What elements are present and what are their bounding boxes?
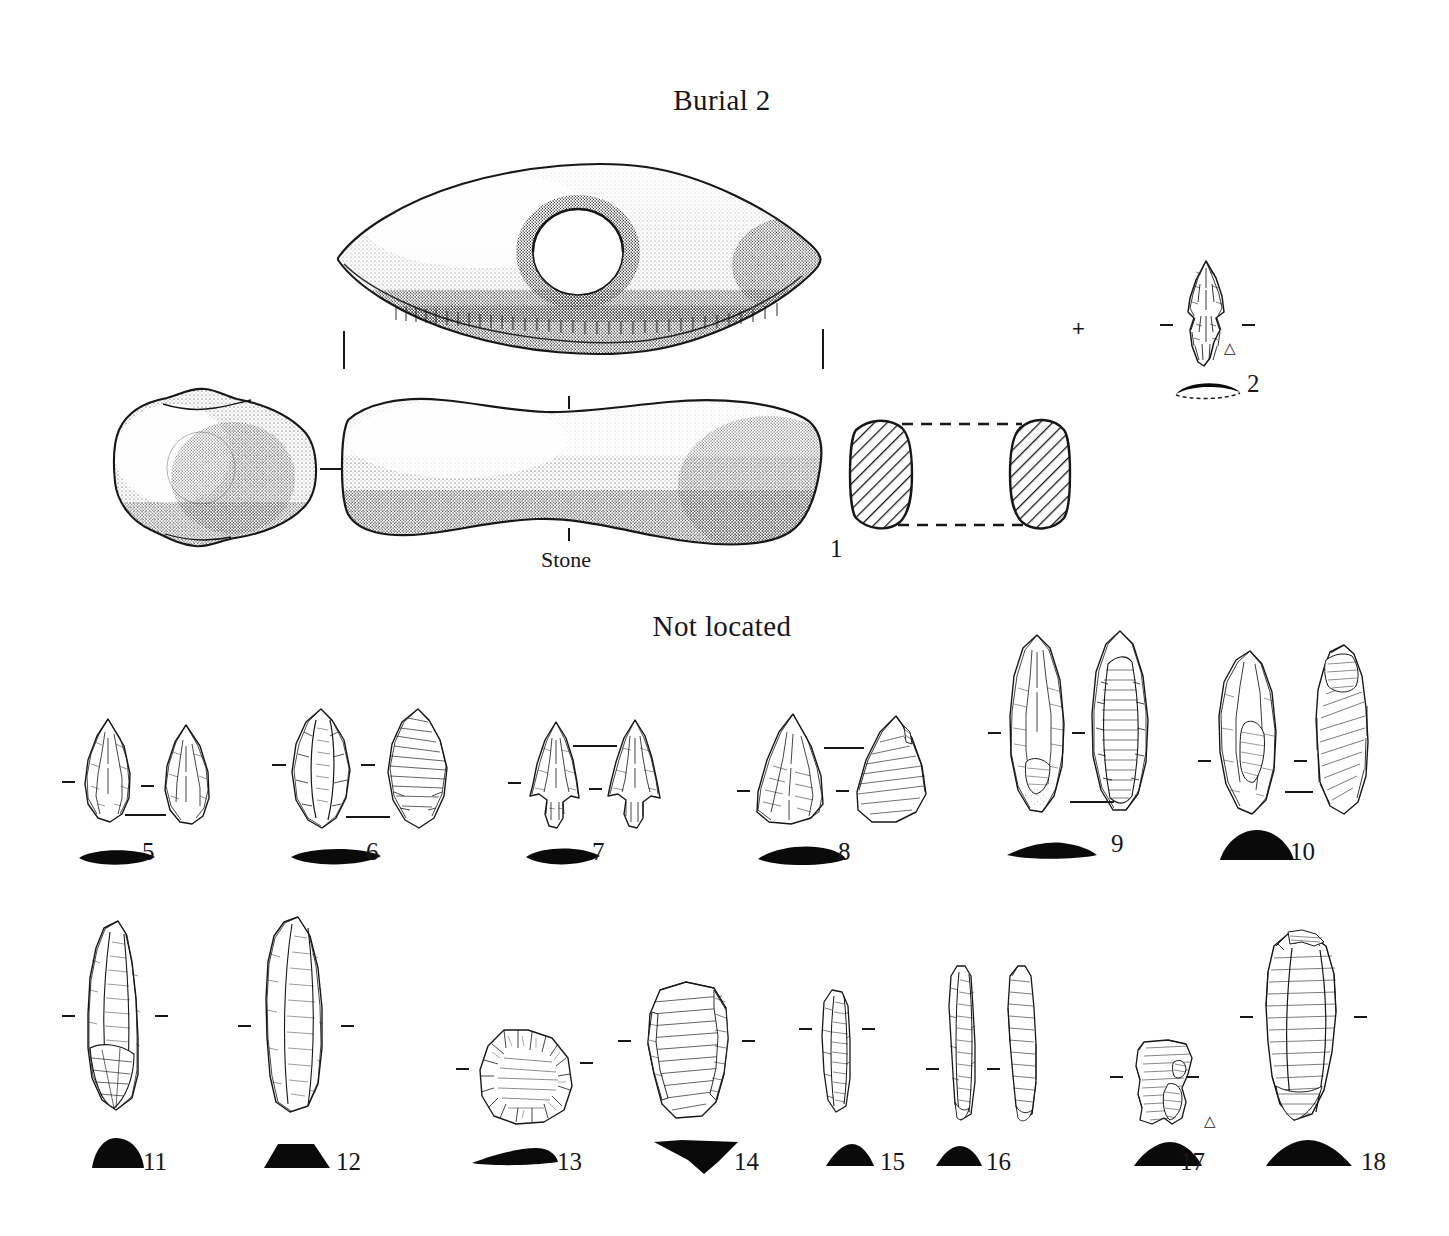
axe-drilled-hole — [516, 195, 640, 309]
scale-tick-6-under — [346, 816, 390, 818]
artifact-11-obverse — [80, 918, 150, 1118]
artifact-9-obverse — [1006, 632, 1068, 818]
label-artifact-10: 10 — [1290, 838, 1315, 866]
artifact-9-reverse — [1088, 628, 1152, 818]
label-artifact-6: 6 — [366, 838, 379, 866]
artifact-11-cross-section — [88, 1136, 148, 1170]
artifact-8-obverse — [753, 712, 829, 828]
scale-tick-6-mid — [361, 764, 375, 766]
scale-tick-7-left — [508, 782, 521, 784]
artifact-16-cross-section — [934, 1144, 984, 1168]
scale-tick-9-left — [988, 732, 1001, 734]
label-artifact-16: 16 — [986, 1148, 1011, 1176]
artifact-12-cross-section — [262, 1140, 332, 1170]
scale-tick-7-mid — [589, 788, 602, 790]
artifact-13-obverse — [474, 1022, 582, 1130]
scale-tick-12-right — [341, 1025, 354, 1027]
label-artifact-8: 8 — [838, 838, 851, 866]
artifact-2-cross-section — [1172, 376, 1244, 402]
artifact-7-cross-section — [524, 845, 602, 869]
artifact-plate: Burial 2 Not located — [0, 0, 1449, 1236]
scale-tick-14-right — [742, 1040, 755, 1042]
scale-tick-13-left — [456, 1068, 469, 1070]
artifact-16-obverse — [943, 962, 983, 1130]
scale-tick-15-right — [862, 1028, 875, 1030]
artifact-10-reverse — [1310, 642, 1374, 818]
material-triangle-icon-2: △ — [1224, 341, 1236, 356]
heading-not-located: Not located — [592, 610, 852, 643]
artifact-7-reverse — [604, 718, 666, 830]
label-artifact-2: 2 — [1247, 370, 1260, 398]
artifact-13-cross-section — [470, 1146, 560, 1166]
label-stone-material: Stone — [541, 547, 591, 573]
artifact-1-butt-view — [105, 382, 335, 557]
artifact-9-cross-section — [1005, 839, 1099, 861]
artifact-15-obverse — [816, 986, 858, 1118]
scale-tick-13-right — [580, 1062, 593, 1064]
registration-cross-icon: + — [1072, 318, 1085, 340]
label-artifact-14: 14 — [734, 1148, 759, 1176]
artifact-1-top-view — [330, 140, 830, 365]
artifact-10-obverse — [1214, 648, 1280, 818]
scale-tick-10-under — [1285, 791, 1313, 793]
scale-tick-10-left — [1198, 760, 1211, 762]
label-artifact-9: 9 — [1111, 830, 1124, 858]
material-triangle-icon-17: △ — [1204, 1114, 1216, 1129]
label-artifact-15: 15 — [880, 1148, 905, 1176]
artifact-1-side-view — [338, 386, 828, 558]
label-artifact-1: 1 — [830, 535, 843, 563]
artifact-14-obverse — [640, 976, 744, 1128]
scale-tick-17-left — [1110, 1076, 1123, 1078]
artifact-18-obverse — [1258, 928, 1348, 1128]
artifact-7-obverse — [525, 720, 587, 830]
scale-tick-11-left — [62, 1015, 75, 1017]
scale-tick-2-right — [1242, 324, 1255, 326]
scale-tick-axe-right — [822, 329, 824, 369]
artifact-1-cross-section — [846, 412, 1074, 536]
label-artifact-5: 5 — [142, 838, 155, 866]
scale-tick-10-mid — [1294, 760, 1307, 762]
scale-tick-14-left — [618, 1040, 631, 1042]
scale-tick-18-right — [1354, 1016, 1367, 1018]
artifact-6-reverse — [384, 706, 452, 832]
artifact-17-obverse — [1130, 1036, 1206, 1132]
artifact-15-cross-section — [824, 1142, 876, 1168]
scale-tick-8-left — [737, 790, 750, 792]
scale-tick-8-top — [824, 747, 864, 749]
artifact-8-reverse — [852, 714, 930, 826]
artifact-14-cross-section — [652, 1138, 740, 1176]
scale-tick-9-under — [1070, 801, 1114, 803]
artifact-6-obverse — [288, 706, 354, 832]
artifact-10-cross-section — [1218, 828, 1296, 862]
scale-tick-18-left — [1240, 1016, 1253, 1018]
artifact-8-cross-section — [756, 843, 848, 869]
scale-tick-6-left — [272, 764, 286, 766]
heading-burial-2: Burial 2 — [592, 84, 852, 117]
scale-tick-16-left — [926, 1068, 939, 1070]
scale-tick-5-mid — [141, 785, 154, 787]
scale-tick-5-under — [125, 814, 166, 816]
scale-tick-17-right — [1186, 1076, 1199, 1078]
label-artifact-17: 17 — [1180, 1148, 1205, 1176]
scale-tick-7-top — [573, 745, 617, 747]
artifact-12-obverse — [258, 914, 334, 1118]
scale-tick-15-left — [799, 1028, 812, 1030]
scale-tick-12-left — [238, 1025, 251, 1027]
label-artifact-11: 11 — [143, 1148, 167, 1176]
artifact-18-cross-section — [1264, 1138, 1354, 1168]
scale-tick-16-mid — [987, 1068, 1000, 1070]
label-artifact-13: 13 — [557, 1148, 582, 1176]
scale-tick-11-right — [155, 1015, 168, 1017]
label-artifact-12: 12 — [336, 1148, 361, 1176]
artifact-5-reverse — [158, 722, 216, 828]
label-artifact-18: 18 — [1361, 1148, 1386, 1176]
scale-tick-axe-left — [343, 331, 345, 369]
scale-tick-8-mid — [836, 790, 849, 792]
scale-tick-2-left — [1160, 324, 1173, 326]
artifact-5-obverse — [78, 716, 138, 826]
scale-tick-9-mid — [1072, 732, 1085, 734]
scale-tick-5-left — [62, 781, 75, 783]
artifact-16-reverse — [1002, 962, 1044, 1130]
label-artifact-7: 7 — [592, 838, 605, 866]
